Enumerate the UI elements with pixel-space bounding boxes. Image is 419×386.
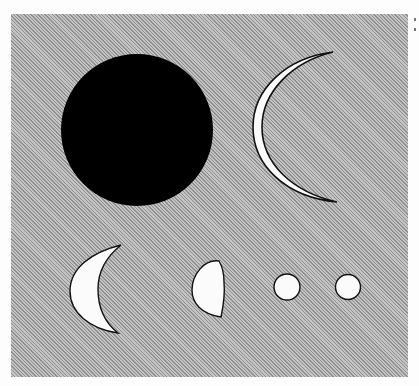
phases-illustration — [0, 0, 419, 386]
crescent — [70, 245, 121, 333]
half-phase — [192, 261, 224, 317]
thin-crescent — [253, 52, 337, 202]
scan-speck — [414, 28, 416, 31]
small-disk-2 — [336, 275, 361, 300]
dark-disk — [61, 54, 213, 206]
scan-speck — [414, 18, 416, 21]
small-disk-1 — [274, 274, 300, 300]
